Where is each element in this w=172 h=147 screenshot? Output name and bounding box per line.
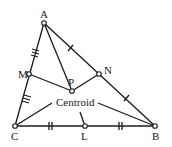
centroid-annotation: Centroid (56, 96, 95, 108)
label-p: P (68, 76, 74, 88)
median-b-segment (98, 103, 155, 126)
label-c: C (11, 130, 18, 142)
label-m: M (18, 68, 28, 80)
median-n-p (72, 74, 99, 91)
label-a: A (40, 8, 48, 20)
label-n: N (104, 64, 112, 76)
triangle-figure: A M N P Centroid C L B (0, 0, 172, 147)
point-l (83, 124, 88, 129)
label-l: L (81, 130, 88, 142)
point-b (153, 124, 158, 129)
centroid-diagram: A M N P Centroid C L B (0, 0, 172, 147)
label-b: B (152, 130, 159, 142)
point-n (97, 72, 102, 77)
point-a (42, 21, 47, 26)
point-c (13, 124, 18, 129)
point-p (70, 89, 75, 94)
